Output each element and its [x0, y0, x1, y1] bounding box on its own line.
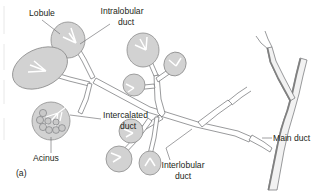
label-interlobular-duct-line2: duct — [175, 171, 192, 181]
acinus-ball — [46, 127, 53, 134]
main-duct-shape — [256, 31, 307, 190]
label-acinus: Acinus — [33, 153, 59, 163]
acinus-ball — [45, 118, 51, 124]
label-intercalated-duct-line2: duct — [120, 121, 137, 131]
label-lobule: Lobule — [29, 8, 55, 18]
leader-interlobular-duct — [166, 129, 192, 160]
salivary-gland-duct-diagram: Lobule Intralobular duct Intercalated du… — [0, 0, 321, 191]
lobule-center-left — [123, 74, 145, 96]
label-main-duct: Main duct — [273, 133, 311, 143]
label-intercalated-duct-line1: Intercalated — [103, 110, 148, 120]
leader-intercalated-duct — [70, 115, 101, 119]
acinus-ball — [53, 119, 59, 125]
lobule-lower-mid — [139, 151, 161, 175]
panel-label: (a) — [16, 168, 27, 178]
label-intralobular-duct-line2: duct — [118, 17, 135, 27]
label-interlobular-duct-line1: Interlobular — [162, 160, 205, 170]
acinus-ball — [36, 116, 43, 123]
diagram-canvas: Lobule Intralobular duct Intercalated du… — [0, 0, 321, 191]
acinus-ball — [59, 125, 66, 132]
acinus-ball — [39, 109, 46, 116]
label-intralobular-duct-line1: Intralobular — [101, 6, 144, 16]
lobule-center-top — [127, 33, 159, 67]
